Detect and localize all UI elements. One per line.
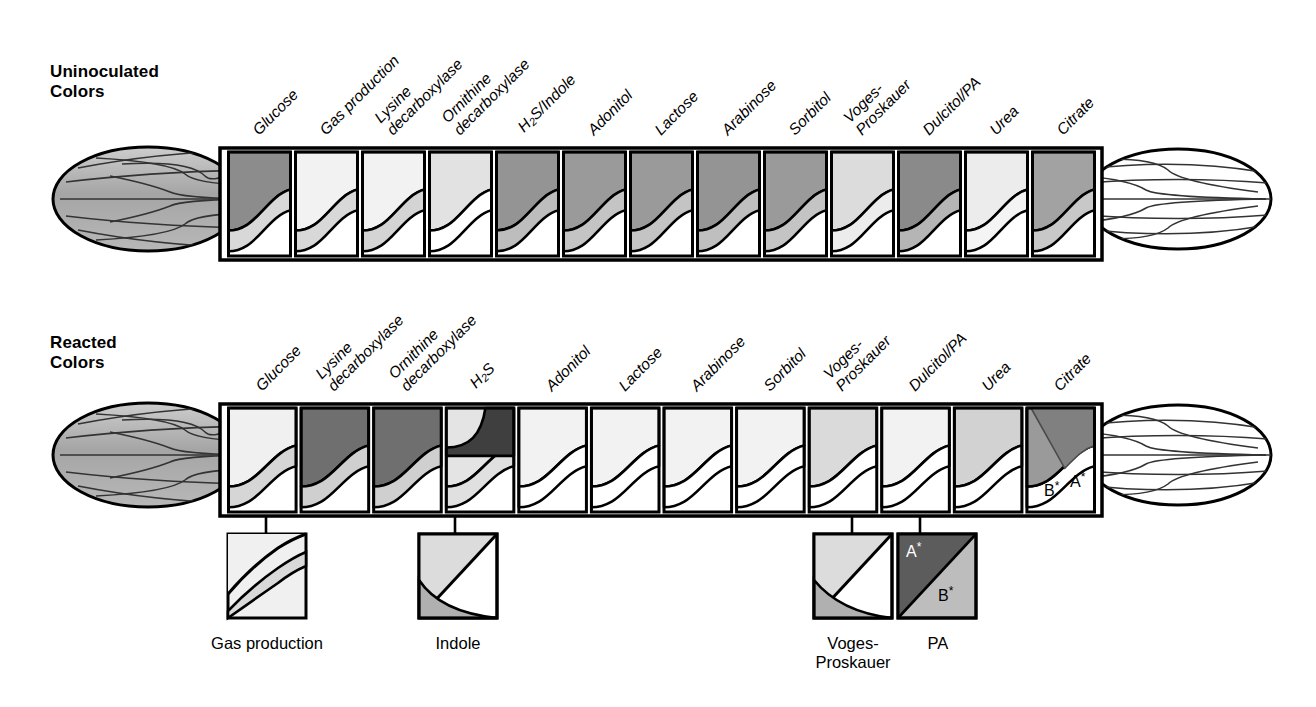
callout-label-pa: PA — [906, 634, 970, 653]
callout-label-voges-proskauer: Voges- Proskauer — [793, 634, 913, 672]
compartment-reacted-1[interactable] — [301, 408, 369, 512]
callout-box-indole — [419, 534, 497, 618]
compartment-uninoculated-4[interactable] — [497, 152, 559, 256]
callout-box-voges-proskauer — [814, 534, 892, 618]
compartment-uninoculated-9[interactable] — [832, 152, 894, 256]
compartment-uninoculated-12[interactable] — [1033, 152, 1095, 256]
compartment-reacted-8[interactable] — [809, 408, 877, 512]
pa-tag-a: A* — [906, 540, 921, 561]
compartment-reacted-7[interactable] — [737, 408, 805, 512]
compartment-reacted-10[interactable] — [954, 408, 1022, 512]
compartment-uninoculated-7[interactable] — [698, 152, 760, 256]
callout-box-gas-production — [228, 534, 306, 618]
compartment-reacted-3[interactable] — [446, 408, 514, 512]
compartment-uninoculated-8[interactable] — [765, 152, 827, 256]
callout-label-indole: Indole — [408, 634, 508, 653]
pa-tag-b: B* — [938, 584, 953, 605]
compartment-uninoculated-1[interactable] — [296, 152, 358, 256]
compartment-uninoculated-0[interactable] — [229, 152, 291, 256]
citrate-tag-b: B* — [1044, 479, 1059, 500]
compartment-uninoculated-5[interactable] — [564, 152, 626, 256]
compartment-reacted-5[interactable] — [591, 408, 659, 512]
compartment-reacted-6[interactable] — [664, 408, 732, 512]
compartment-reacted-11[interactable] — [1027, 408, 1095, 512]
callout-connectors — [266, 516, 920, 534]
compartment-reacted-4[interactable] — [519, 408, 587, 512]
compartment-reacted-2[interactable] — [374, 408, 442, 512]
compartment-uninoculated-6[interactable] — [631, 152, 693, 256]
callout-label-gas-production: Gas production — [192, 634, 342, 653]
compartments-uninoculated — [229, 152, 1095, 256]
enterotube-figure: Uninoculated Colors Reacted Colors — [0, 0, 1316, 707]
compartment-uninoculated-10[interactable] — [899, 152, 961, 256]
citrate-tag-a: A* — [1070, 470, 1085, 491]
compartment-uninoculated-3[interactable] — [430, 152, 492, 256]
compartment-uninoculated-2[interactable] — [363, 152, 425, 256]
compartment-uninoculated-11[interactable] — [966, 152, 1028, 256]
compartment-reacted-0[interactable] — [229, 408, 297, 512]
compartment-reacted-9[interactable] — [882, 408, 950, 512]
tube-cap-right-reacted — [1085, 405, 1272, 505]
tube-cap-right-uninoculated — [1085, 149, 1272, 249]
